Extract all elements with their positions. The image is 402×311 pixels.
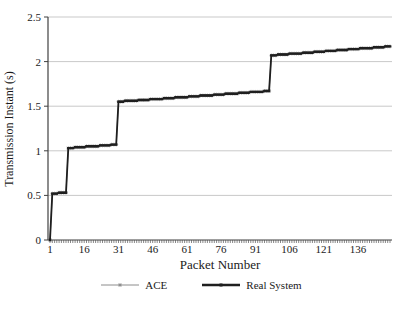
svg-text:91: 91: [250, 243, 261, 255]
chart-figure: 00.511.522.5 1163146617691106121136 Pack…: [0, 0, 402, 311]
y-axis-title: Transmission Instant (s): [2, 71, 16, 187]
svg-text:2.5: 2.5: [27, 11, 41, 23]
legend-item-real-system: Real System: [201, 279, 301, 291]
svg-text:1: 1: [47, 243, 53, 255]
svg-text:0.5: 0.5: [27, 189, 41, 201]
svg-text:136: 136: [350, 243, 367, 255]
chart-plot-area: 00.511.522.5 1163146617691106121136 Pack…: [0, 0, 402, 311]
svg-text:46: 46: [147, 243, 159, 255]
legend-label-real-system: Real System: [246, 279, 301, 291]
svg-text:1.5: 1.5: [27, 100, 41, 112]
legend-label-ace: ACE: [145, 279, 167, 291]
svg-text:61: 61: [181, 243, 192, 255]
gridlines: [48, 17, 392, 195]
legend: ACE Real System: [0, 279, 402, 291]
series-real-system-trace: [49, 45, 391, 241]
svg-text:106: 106: [281, 243, 298, 255]
legend-item-ace: ACE: [100, 279, 167, 291]
ace-star-line-marker-icon: [100, 280, 140, 290]
y-tick-labels: 00.511.522.5: [27, 11, 41, 246]
svg-text:76: 76: [216, 243, 228, 255]
svg-text:16: 16: [79, 243, 91, 255]
svg-text:31: 31: [113, 243, 124, 255]
series-ace-trace: [48, 44, 392, 242]
svg-text:121: 121: [316, 243, 333, 255]
real-system-square-line-marker-icon: [201, 280, 241, 290]
svg-text:1: 1: [36, 145, 42, 157]
x-tick-labels: 1163146617691106121136: [47, 243, 367, 255]
svg-text:2: 2: [36, 56, 42, 68]
x-axis-title: Packet Number: [180, 257, 261, 272]
svg-text:0: 0: [36, 234, 42, 246]
